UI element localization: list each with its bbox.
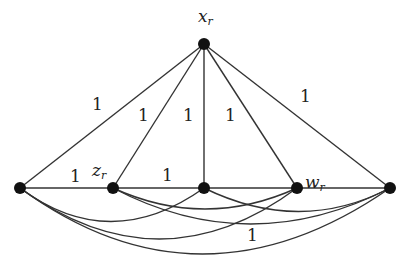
label-z-r: zr	[92, 162, 106, 179]
weight-a-e-curve: 1	[247, 227, 258, 244]
weight-x-w: 1	[225, 107, 236, 124]
node-e	[384, 182, 396, 194]
node-m	[198, 182, 210, 194]
node-z-r	[107, 182, 119, 194]
edge-x-w	[204, 44, 297, 188]
label-z-main: z	[92, 160, 101, 180]
weight-x-a: 1	[92, 96, 103, 113]
node-w-r	[291, 182, 303, 194]
label-z-sub: r	[101, 169, 106, 182]
label-w-r: wr	[305, 174, 325, 191]
label-x-main: x	[198, 6, 208, 26]
label-x-sub: r	[208, 15, 213, 28]
weight-x-e: 1	[300, 88, 311, 105]
node-a	[14, 182, 26, 194]
graph-diagram: xr zr wr 1 1 1 1 1 1 1 1	[0, 0, 406, 266]
weight-a-z: 1	[70, 168, 81, 185]
label-x-r: xr	[198, 8, 213, 25]
label-w-sub: r	[320, 181, 325, 194]
weight-x-z: 1	[138, 107, 149, 124]
edge-x-a	[20, 44, 204, 188]
node-x-r	[198, 38, 210, 50]
weight-z-m: 1	[162, 167, 173, 184]
label-w-main: w	[305, 172, 320, 192]
weight-x-m: 1	[183, 107, 194, 124]
graph-edges	[0, 0, 406, 266]
